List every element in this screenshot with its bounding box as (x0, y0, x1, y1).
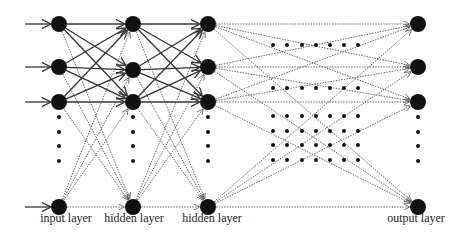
dashed-connection (64, 109, 128, 200)
neural-network-diagram: input layer hidden layer hidden layer ou… (0, 0, 463, 236)
ellipsis-dot (57, 115, 61, 119)
grid-dot (314, 86, 318, 90)
input-layer-label: input layer (40, 211, 92, 225)
grid-dot (356, 86, 360, 90)
hidden-layer-2-label: hidden layer (182, 211, 242, 225)
dashed-connection (216, 68, 409, 100)
dashed-connection (215, 72, 411, 203)
grid-dot (342, 114, 346, 118)
dashed-connection (138, 109, 203, 200)
input-neuron (51, 16, 67, 32)
grid-dot (314, 114, 318, 118)
grid-dot (356, 129, 360, 133)
grid-dot (285, 129, 289, 133)
dashed-connection (214, 29, 411, 201)
hidden1-neuron (125, 94, 141, 110)
grid-dot (271, 143, 275, 147)
solid-connection (141, 67, 199, 69)
grid-dot (328, 86, 332, 90)
grid-dot (300, 43, 304, 47)
grid-dot (314, 129, 318, 133)
grid-dot (271, 129, 275, 133)
nodes-group (51, 16, 426, 215)
grid-dot (271, 86, 275, 90)
ellipsis-dot (131, 144, 135, 148)
grid-dot (342, 86, 346, 90)
ellipsis-dot (206, 130, 210, 134)
grid-dot (342, 158, 346, 162)
grid-dot (300, 129, 304, 133)
hidden-layer-1-label: hidden layer (104, 211, 164, 225)
dashed-connection (137, 75, 204, 200)
grid-dot (300, 143, 304, 147)
ellipsis-dot (206, 144, 210, 148)
ellipsis-dot (416, 115, 420, 119)
edges-group (25, 24, 411, 207)
grid-dot (285, 86, 289, 90)
ellipsis-dot (416, 159, 420, 163)
hidden2-neuron (200, 94, 216, 110)
grid-dot (328, 43, 332, 47)
grid-dot (285, 114, 289, 118)
ellipsis-dot (57, 130, 61, 134)
hidden1-neuron (125, 62, 141, 78)
ellipsis-dot (416, 130, 420, 134)
grid-dot (314, 143, 318, 147)
grid-dot (285, 158, 289, 162)
grid-dot (342, 43, 346, 47)
grid-dot (356, 158, 360, 162)
dashed-connection (215, 71, 411, 202)
ellipsis-dot (416, 144, 420, 148)
ellipsis-dot (57, 159, 61, 163)
input-neuron (51, 94, 67, 110)
output-neuron (410, 94, 426, 110)
hidden2-neuron (200, 59, 216, 75)
output-neuron (410, 59, 426, 75)
output-layer-label: output layer (387, 211, 445, 225)
grid-dot (356, 114, 360, 118)
dashed-connection (214, 30, 411, 202)
dashed-connection (64, 109, 128, 200)
output-neuron (410, 16, 426, 32)
ellipsis-dot (131, 159, 135, 163)
grid-dot (271, 43, 275, 47)
grid-dot (328, 158, 332, 162)
grid-dot (285, 43, 289, 47)
input-neuron (51, 59, 67, 75)
dashed-connection (138, 109, 203, 200)
grid-dot (356, 143, 360, 147)
grid-dot (271, 114, 275, 118)
grid-dot (328, 143, 332, 147)
ellipsis-dot (57, 144, 61, 148)
network-graph (0, 0, 463, 236)
grid-dot (356, 43, 360, 47)
solid-connection (140, 29, 201, 66)
hidden2-neuron (200, 16, 216, 32)
solid-connection (66, 74, 124, 99)
grid-dot (314, 43, 318, 47)
hidden1-neuron (125, 16, 141, 32)
grid-dot (342, 129, 346, 133)
ellipsis-dot (131, 130, 135, 134)
grid-dot (300, 114, 304, 118)
grid-dot (342, 143, 346, 147)
solid-connection (140, 28, 200, 63)
grid-dot (328, 129, 332, 133)
grid-dot (271, 158, 275, 162)
dashed-connection (63, 74, 129, 199)
grid-dot (285, 143, 289, 147)
grid-dot (328, 114, 332, 118)
grid-dot (314, 158, 318, 162)
ellipsis-dot (131, 115, 135, 119)
grid-dot (300, 86, 304, 90)
grid-dot (300, 158, 304, 162)
ellipsis-dot (206, 115, 210, 119)
ellipsis-dot (206, 159, 210, 163)
